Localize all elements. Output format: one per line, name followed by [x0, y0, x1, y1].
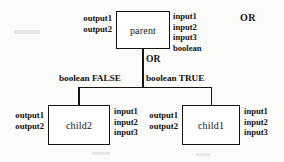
port-input: input2	[173, 22, 231, 33]
node-parent-outputs: output1 output2	[58, 13, 112, 34]
port-input: input2	[244, 117, 284, 128]
edge-parent-trunk	[142, 49, 144, 88]
edge-to-child1	[211, 87, 213, 106]
port-input: input1	[244, 106, 284, 117]
node-child1-outputs: output1 output2	[126, 110, 178, 131]
root-operator-label: OR	[146, 53, 160, 64]
port-output: output2	[0, 121, 44, 132]
node-parent-label: parent	[130, 25, 156, 36]
port-input: input3	[173, 32, 231, 43]
port-input: input3	[244, 127, 284, 138]
port-input: input1	[173, 11, 231, 22]
scan-artifact	[92, 152, 110, 155]
node-parent-inputs: input1 input2 input3 boolean	[173, 11, 231, 53]
edge-branch-bar	[78, 87, 212, 89]
scan-artifact	[14, 30, 40, 34]
port-output: output2	[126, 121, 178, 132]
node-tree-diagram: parent output1 output2 input1 input2 inp…	[0, 0, 284, 162]
node-child2-outputs: output1 output2	[0, 110, 44, 131]
node-child1[interactable]: child1	[182, 105, 240, 145]
edge-label-false: boolean FALSE	[59, 73, 121, 83]
node-child2[interactable]: child2	[48, 105, 110, 145]
edge-label-true: boolean TRUE	[146, 73, 204, 83]
node-child2-label: child2	[66, 120, 92, 131]
node-child1-label: child1	[198, 120, 224, 131]
port-output: output1	[0, 110, 44, 121]
edge-to-child2	[78, 87, 80, 106]
port-output: output2	[58, 24, 112, 35]
scan-artifact	[196, 153, 210, 156]
corner-operator-label: OR	[240, 12, 256, 23]
port-input: boolean	[173, 43, 231, 54]
port-output: output1	[126, 110, 178, 121]
node-child1-inputs: input1 input2 input3	[244, 106, 284, 138]
port-output: output1	[58, 13, 112, 24]
node-parent[interactable]: parent	[116, 11, 170, 49]
